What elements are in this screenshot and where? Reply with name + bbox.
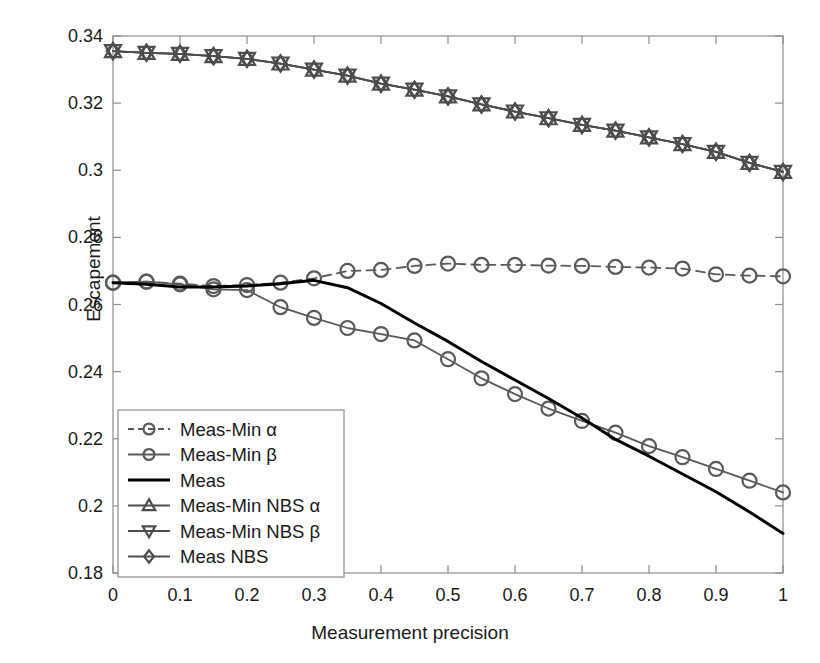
legend-label: Meas NBS: [180, 546, 268, 567]
legend[interactable]: Meas-Min αMeas-Min βMeasMeas-Min NBS αMe…: [118, 410, 344, 577]
figure: 00.10.20.30.40.50.60.70.80.91 0.180.20.2…: [0, 0, 820, 663]
x-tick-label: 0.8: [636, 585, 661, 605]
y-axis-label: Escapement: [83, 169, 105, 369]
y-tick-label: 0.34: [68, 26, 103, 46]
x-tick-label: 0.2: [234, 585, 259, 605]
y-tick-label: 0.32: [68, 93, 103, 113]
legend-label: Meas: [180, 470, 225, 491]
y-tick-label: 0.22: [68, 429, 103, 449]
legend-label: Meas-Min β: [180, 444, 277, 465]
y-tick-label: 0.2: [78, 496, 103, 516]
y-tick-label: 0.18: [68, 563, 103, 583]
x-tick-label: 0.1: [167, 585, 192, 605]
chart-canvas: 00.10.20.30.40.50.60.70.80.91 0.180.20.2…: [0, 0, 820, 663]
legend-label: Meas-Min NBS α: [180, 495, 321, 516]
x-tick-label: 0.7: [569, 585, 594, 605]
legend-label: Meas-Min NBS β: [180, 521, 320, 542]
x-tick-label: 0: [108, 585, 118, 605]
legend-item-5[interactable]: Meas NBS: [128, 546, 268, 567]
x-tick-label: 0.5: [435, 585, 460, 605]
x-axis-label: Measurement precision: [0, 622, 820, 644]
x-tick-label: 0.9: [703, 585, 728, 605]
x-tick-label: 0.3: [301, 585, 326, 605]
legend-label: Meas-Min α: [180, 419, 277, 440]
x-tick-label: 0.6: [502, 585, 527, 605]
x-tick-label: 1: [778, 585, 788, 605]
x-tick-label: 0.4: [368, 585, 393, 605]
